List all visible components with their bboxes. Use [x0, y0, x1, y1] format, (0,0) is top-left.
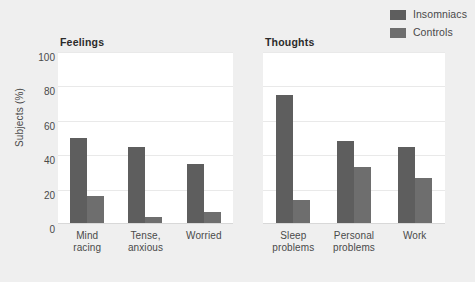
x-axis-label: Sleepproblems	[263, 230, 324, 253]
bar-insomniacs	[128, 147, 145, 224]
x-axis-baseline	[58, 223, 233, 224]
x-axis-label-line: Worried	[175, 230, 233, 242]
panel-title-feelings: Feelings	[58, 36, 233, 48]
bar-group	[263, 52, 324, 224]
x-axis-labels-feelings: MindracingTense,anxiousWorried	[58, 230, 233, 253]
bar-controls	[293, 200, 310, 224]
bar-controls	[354, 167, 371, 224]
plot-area-thoughts	[263, 52, 445, 224]
panel-thoughts: Thoughts SleepproblemsPersonalproblemsWo…	[263, 36, 445, 253]
panel-feelings: Feelings MindracingTense,anxiousWorried	[58, 36, 233, 253]
bar-group	[116, 52, 174, 224]
bar-insomniacs	[398, 147, 415, 224]
bar-insomniacs	[70, 138, 87, 224]
x-axis-label-line: Sleep	[263, 230, 324, 242]
x-axis-label: Tense,anxious	[116, 230, 174, 253]
legend-label-insomniacs: Insomniacs	[413, 9, 467, 20]
panel-title-thoughts: Thoughts	[263, 36, 445, 48]
x-axis-label-line: problems	[324, 242, 385, 254]
x-axis-label: Mindracing	[58, 230, 116, 253]
y-axis-tick-60: 60	[44, 120, 55, 131]
x-axis-label: Work	[384, 230, 445, 253]
bar-groups-feelings	[58, 52, 233, 224]
y-axis-tick-80: 80	[44, 86, 55, 97]
x-axis-labels-thoughts: SleepproblemsPersonalproblemsWork	[263, 230, 445, 253]
x-axis-label: Worried	[175, 230, 233, 253]
x-axis-label-line: racing	[58, 242, 116, 254]
chart-container: Insomniacs Controls Subjects (%) 0204060…	[0, 0, 475, 282]
bar-insomniacs	[276, 95, 293, 224]
legend-swatch-icon	[390, 10, 406, 20]
bar-controls	[415, 178, 432, 224]
x-axis-label-line: Work	[384, 230, 445, 242]
x-axis-baseline	[263, 223, 445, 224]
plot-area-feelings	[58, 52, 233, 224]
x-axis-label-line: Tense,	[116, 230, 174, 242]
bar-group	[58, 52, 116, 224]
bar-group	[324, 52, 385, 224]
bar-group	[175, 52, 233, 224]
chart-legend: Insomniacs Controls	[390, 8, 467, 39]
y-axis-tick-40: 40	[44, 155, 55, 166]
legend-item-insomniacs: Insomniacs	[390, 8, 467, 21]
bar-insomniacs	[187, 164, 204, 224]
x-axis-label-line: anxious	[116, 242, 174, 254]
y-axis-ticks: 020406080100	[30, 52, 58, 234]
bar-controls	[87, 196, 104, 224]
bar-groups-thoughts	[263, 52, 445, 224]
bar-group	[384, 52, 445, 224]
x-axis-label-line: Mind	[58, 230, 116, 242]
y-axis-tick-100: 100	[38, 52, 55, 63]
bar-insomniacs	[337, 141, 354, 224]
y-axis-tick-0: 0	[49, 224, 55, 235]
x-axis-label-line: problems	[263, 242, 324, 254]
y-axis-tick-20: 20	[44, 189, 55, 200]
x-axis-label-line: Personal	[324, 230, 385, 242]
y-axis-title: Subjects (%)	[14, 63, 25, 173]
x-axis-label: Personalproblems	[324, 230, 385, 253]
